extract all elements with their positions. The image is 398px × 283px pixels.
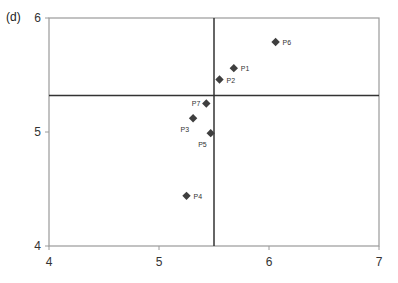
x-tick-label: 4 — [46, 255, 53, 269]
data-point-label: P2 — [227, 77, 236, 84]
data-point-marker — [202, 99, 210, 107]
data-point-label: P3 — [181, 126, 190, 133]
scatter-chart: 4567456P1P2P3P4P5P6P7 — [0, 0, 398, 283]
data-point-marker — [230, 64, 238, 72]
data-point-label: P5 — [198, 141, 207, 148]
x-tick-label: 7 — [376, 255, 383, 269]
y-tick-label: 4 — [34, 239, 41, 253]
y-tick-label: 6 — [34, 11, 41, 25]
data-point-marker — [271, 38, 279, 46]
data-point-marker — [182, 192, 190, 200]
data-point-marker — [189, 114, 197, 122]
x-tick-label: 6 — [266, 255, 273, 269]
x-tick-label: 5 — [156, 255, 163, 269]
data-point-label: P1 — [241, 65, 250, 72]
data-point-label: P4 — [194, 193, 203, 200]
data-point-marker — [215, 75, 223, 83]
data-point-label: P6 — [283, 39, 292, 46]
y-tick-label: 5 — [34, 125, 41, 139]
data-point-label: P7 — [192, 100, 201, 107]
